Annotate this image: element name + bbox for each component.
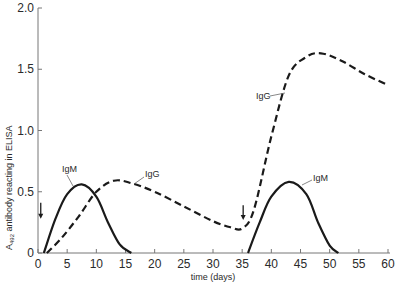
- y-tick-label: 0.5: [17, 185, 34, 199]
- injection-arrows: [38, 203, 245, 220]
- x-tick-label: 10: [90, 257, 104, 271]
- igg-curve: [47, 53, 388, 253]
- igm-secondary-annotation: IgM: [302, 173, 328, 185]
- x-tick-label: 5: [64, 257, 71, 271]
- y-tick-label: 2.0: [17, 1, 34, 15]
- leader-line: [134, 177, 144, 184]
- igg-secondary-label: IgG: [256, 91, 271, 101]
- igm-primary-annotation: IgM: [62, 164, 77, 186]
- x-ticks: 051015202530354045505560: [35, 249, 395, 271]
- igm-secondary-label: IgM: [313, 173, 328, 183]
- down-arrow-icon: [38, 214, 43, 219]
- igg-primary-label: IgG: [145, 169, 160, 179]
- leader-line: [67, 175, 73, 186]
- x-axis-title: time (days): [191, 272, 236, 282]
- x-tick-label: 40: [265, 257, 279, 271]
- x-tick-label: 45: [294, 257, 308, 271]
- x-tick-label: 35: [235, 257, 249, 271]
- x-tick-label: 0: [35, 257, 42, 271]
- x-tick-label: 20: [148, 257, 162, 271]
- igm-secondary-curve: [248, 182, 338, 253]
- leader-line: [302, 180, 312, 185]
- x-tick-label: 55: [352, 257, 366, 271]
- antibody-response-chart: 00.51.01.52.0 051015202530354045505560 A…: [0, 0, 397, 287]
- y-tick-label: 1.5: [17, 62, 34, 76]
- y-axis-title: A492 antibody reacting in ELISA: [4, 125, 15, 250]
- x-tick-label: 50: [323, 257, 337, 271]
- x-tick-label: 30: [206, 257, 220, 271]
- x-tick-label: 15: [119, 257, 133, 271]
- x-tick-label: 60: [381, 257, 395, 271]
- x-tick-label: 25: [177, 257, 191, 271]
- y-tick-label: 0: [27, 246, 34, 260]
- y-tick-label: 1.0: [17, 124, 34, 138]
- igg-primary-annotation: IgG: [134, 169, 160, 184]
- igm-primary-label: IgM: [62, 164, 77, 174]
- down-arrow-icon: [241, 215, 246, 220]
